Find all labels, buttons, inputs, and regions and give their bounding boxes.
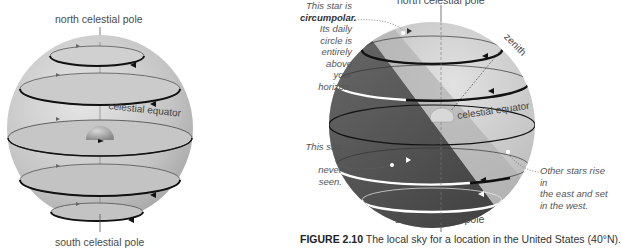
figure-number: FIGURE 2.10 — [300, 233, 363, 245]
left-sphere — [7, 27, 193, 232]
south-celestial-pole-label: south celestial pole — [55, 236, 144, 248]
north-celestial-pole-label-right: north celestial pole — [397, 0, 485, 6]
figure-caption: FIGURE 2.10 The local sky for a location… — [300, 233, 621, 245]
caption-text: The local sky for a location in the Unit… — [363, 233, 621, 245]
south-celestial-pole-label-right: south celestial pole — [395, 213, 484, 225]
rise-set-note: Other stars rise in the east and set in … — [540, 165, 614, 211]
north-celestial-pole-label: north celestial pole — [55, 13, 143, 25]
circumpolar-note: This star is circumpolar. Its daily circ… — [300, 0, 352, 92]
never-seen-note: This star is never seen. — [300, 141, 342, 187]
